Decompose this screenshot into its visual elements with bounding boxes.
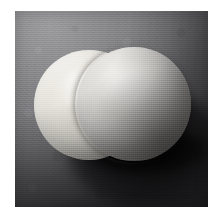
photograph [15, 11, 208, 207]
page-canvas [0, 0, 224, 219]
right-sphere-terminator [77, 47, 191, 161]
right-sphere [77, 47, 191, 161]
